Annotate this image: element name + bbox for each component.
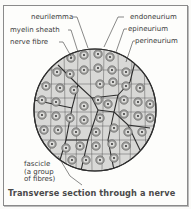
- label-perineurium: perineurium: [135, 37, 178, 45]
- label-epineurium: epineurium: [128, 25, 168, 33]
- figure-caption: Transverse section through a nerve: [8, 188, 175, 198]
- label-fascicle: fascicle (a group of fibres): [24, 161, 55, 184]
- label-nerve-fibre: nerve fibre: [10, 38, 48, 46]
- label-myelin-sheath: myelin sheath: [10, 26, 60, 34]
- label-neurilemma: neurilemma: [31, 13, 73, 21]
- fascicle-line-3: of fibres): [24, 176, 55, 184]
- label-endoneurium: endoneurium: [130, 13, 177, 21]
